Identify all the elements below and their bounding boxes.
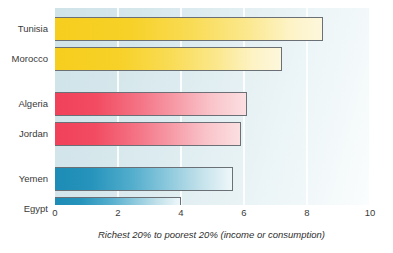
plot-area (55, 8, 370, 205)
bar-algeria[interactable] (55, 92, 247, 116)
x-tick-6: 6 (229, 208, 259, 218)
bar-row (55, 122, 370, 146)
bar-row (55, 47, 370, 71)
bar-yemen[interactable] (55, 167, 233, 191)
bar-jordan[interactable] (55, 122, 241, 146)
x-axis-tick-labels: 0246810 (0, 208, 393, 224)
bar-row (55, 92, 370, 116)
bar-row (55, 167, 370, 191)
category-label-yemen: Yemen (0, 174, 48, 184)
category-label-morocco: Morocco (0, 54, 48, 64)
x-tick-4: 4 (166, 208, 196, 218)
bar-chart: TunisiaMoroccoAlgeriaJordanYemenEgypt 02… (0, 0, 393, 253)
bar-row (55, 197, 370, 205)
bar-row (55, 17, 370, 41)
category-label-tunisia: Tunisia (0, 24, 48, 34)
x-tick-10: 10 (355, 208, 385, 218)
bar-egypt[interactable] (55, 197, 181, 205)
x-tick-8: 8 (292, 208, 322, 218)
bar-tunisia[interactable] (55, 17, 323, 41)
x-tick-2: 2 (103, 208, 133, 218)
category-label-algeria: Algeria (0, 99, 48, 109)
x-tick-0: 0 (40, 208, 70, 218)
bar-morocco[interactable] (55, 47, 282, 71)
category-label-jordan: Jordan (0, 129, 48, 139)
x-axis-title: Richest 20% to poorest 20% (income or co… (0, 230, 393, 240)
